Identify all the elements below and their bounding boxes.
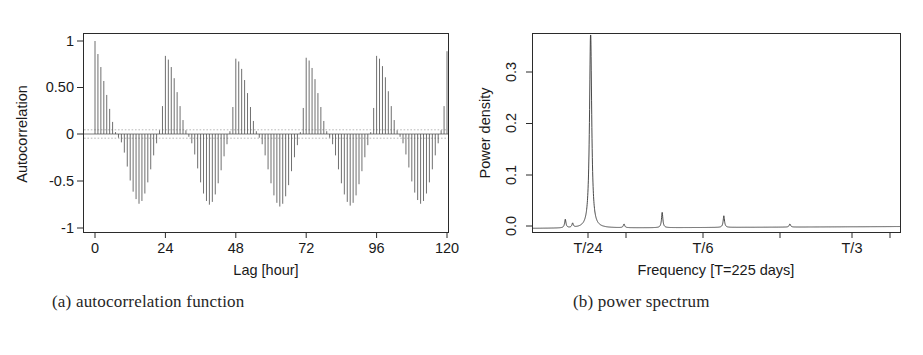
spectrum-y-tick-02: 0.2 <box>503 113 519 133</box>
acf-y-tick-050: 0.50 <box>46 79 74 95</box>
acf-plot-frame <box>84 34 449 233</box>
spectrum-x-tick-t3: T/3 <box>842 240 863 256</box>
acf-y-tick-labels: 1 0.50 0 -0.5 -1 <box>46 33 74 236</box>
panel-autocorrelation: Autocorrelation 1 0.50 0 -0.5 -1 <box>0 0 460 300</box>
acf-y-tickmarks <box>77 41 83 228</box>
spectrum-x-tick-t24: T/24 <box>573 240 602 256</box>
acf-y-tick-neg05: -0.5 <box>49 173 74 189</box>
acf-y-axis-title: Autocorrelation <box>14 85 30 183</box>
spectrum-y-tick-00: 0.0 <box>503 216 519 236</box>
spectrum-y-tickmarks <box>526 72 532 226</box>
spectrum-y-tick-labels: 0.0 0.1 0.2 0.3 <box>503 62 519 236</box>
spectrum-x-tick-t6: T/6 <box>693 240 714 256</box>
caption-panel-a: (a) autocorrelation function <box>52 292 245 312</box>
spectrum-y-tick-03: 0.3 <box>503 62 519 82</box>
acf-plot: Autocorrelation 1 0.50 0 -0.5 -1 <box>0 0 460 300</box>
acf-x-tick-120: 120 <box>435 240 459 256</box>
captions-row: (a) autocorrelation function (b) power s… <box>0 292 923 342</box>
spectrum-plot: Power density 0.0 0.1 0.2 0.3 <box>460 0 923 300</box>
figure-container: Autocorrelation 1 0.50 0 -0.5 -1 <box>0 0 923 355</box>
acf-x-tick-96: 96 <box>369 240 385 256</box>
spectrum-x-tick-labels: T/24 T/6 T/3 <box>573 240 862 256</box>
spectrum-x-axis-title: Frequency [T=225 days] <box>638 262 795 278</box>
acf-x-tick-24: 24 <box>157 240 173 256</box>
acf-x-tick-0: 0 <box>91 240 99 256</box>
acf-y-tick-1: 1 <box>66 33 74 49</box>
panel-power-spectrum: Power density 0.0 0.1 0.2 0.3 <box>460 0 923 300</box>
spectrum-x-tickmarks <box>588 233 890 239</box>
acf-y-tick-neg1: -1 <box>61 220 74 236</box>
acf-y-tick-0: 0 <box>66 126 74 142</box>
acf-x-tick-48: 48 <box>228 240 244 256</box>
spectrum-curve <box>533 35 900 228</box>
acf-stem-group <box>95 41 447 207</box>
acf-x-tick-72: 72 <box>298 240 314 256</box>
acf-x-tickmarks <box>95 233 447 239</box>
caption-panel-b: (b) power spectrum <box>573 292 710 312</box>
acf-x-axis-title: Lag [hour] <box>233 262 298 278</box>
acf-x-tick-labels: 0 24 48 72 96 120 <box>91 240 459 256</box>
spectrum-y-tick-01: 0.1 <box>503 165 519 185</box>
spectrum-y-axis-title: Power density <box>477 87 493 179</box>
